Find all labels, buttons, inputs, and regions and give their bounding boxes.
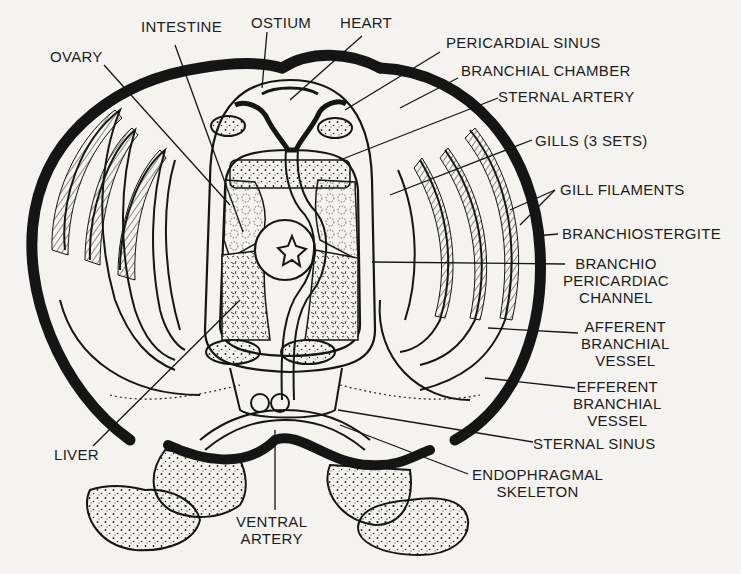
- pericardial-blob-left: [211, 116, 245, 136]
- label-branchiostergite: BRANCHIOSTERGITE: [562, 225, 721, 242]
- right-gill-filaments: [414, 128, 519, 320]
- leader-efferent: [485, 378, 575, 388]
- label-afferent-branchial-vessel: AFFERENT BRANCHIAL VESSEL: [581, 318, 670, 369]
- label-pericardial-sinus: PERICARDIAL SINUS: [446, 34, 601, 51]
- label-gill-filaments: GILL FILAMENTS: [560, 181, 685, 198]
- label-branchio-pericardiac-channel: BRANCHIO PERICARDIAC CHANNEL: [563, 255, 669, 306]
- lower-blob-right: [281, 340, 335, 364]
- label-efferent-branchial-vessel: EFFERENT BRANCHIAL VESSEL: [573, 378, 662, 429]
- diagram-canvas: INTESTINE OSTIUM HEART OVARY PERICARDIAL…: [0, 0, 741, 574]
- label-heart: HEART: [340, 14, 392, 31]
- label-branchial-chamber: BRANCHIAL CHAMBER: [461, 62, 631, 79]
- pericardial-blob-right: [318, 118, 352, 138]
- leader-heart: [290, 36, 362, 100]
- leader-ovary: [104, 65, 230, 205]
- label-ovary: OVARY: [50, 48, 103, 65]
- label-endophragmal-skeleton: ENDOPHRAGMAL SKELETON: [472, 466, 603, 500]
- label-sternal-artery: STERNAL ARTERY: [498, 88, 634, 105]
- sternal-band: [230, 160, 350, 188]
- label-liver: LIVER: [54, 446, 99, 463]
- label-intestine: INTESTINE: [141, 18, 222, 35]
- label-sternal-sinus: STERNAL SINUS: [533, 435, 656, 452]
- label-ventral-artery: VENTRAL ARTERY: [236, 513, 307, 547]
- lower-blob-left: [206, 340, 260, 364]
- label-gills: GILLS (3 SETS): [535, 132, 648, 149]
- label-ostium: OSTIUM: [251, 14, 311, 31]
